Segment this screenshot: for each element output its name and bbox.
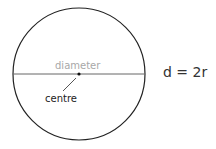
- centre-dot: [77, 72, 80, 75]
- centre-pointer: [63, 78, 76, 91]
- diameter-label: diameter: [55, 61, 100, 71]
- centre-label: centre: [45, 94, 77, 104]
- formula-label: d = 2r: [163, 65, 207, 79]
